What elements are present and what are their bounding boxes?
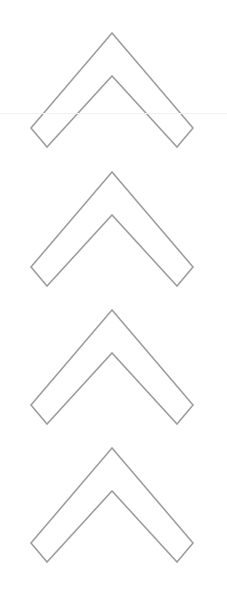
chevron-stack-canvas bbox=[0, 0, 227, 605]
chevron-up-icon-1[interactable] bbox=[0, 28, 227, 152]
chevron-up-icon-2[interactable] bbox=[0, 167, 227, 291]
chevron-up-outline-4 bbox=[31, 448, 193, 562]
chevron-up-icon-3[interactable] bbox=[0, 305, 227, 429]
chevron-up-outline-3 bbox=[31, 310, 193, 424]
chevron-up-outline-2 bbox=[31, 172, 193, 286]
chevron-up-outline-1 bbox=[31, 33, 193, 147]
chevron-up-icon-4[interactable] bbox=[0, 443, 227, 567]
